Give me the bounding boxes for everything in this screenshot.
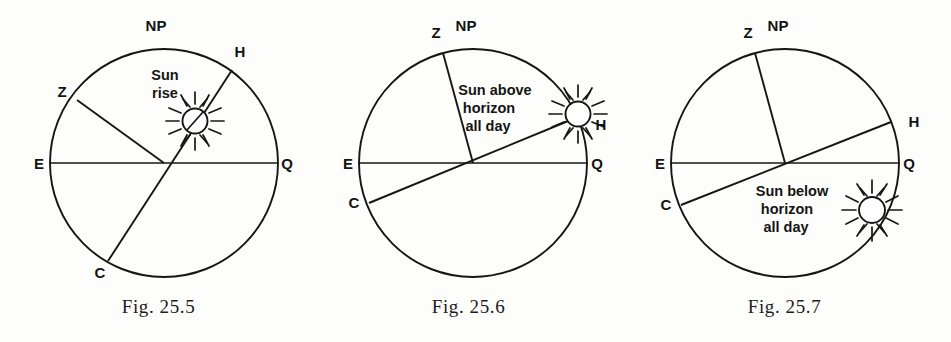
sun-icon bbox=[842, 180, 902, 241]
figure-25-6: NP Z H C E Q Sun above horizon all day F… bbox=[310, 0, 627, 342]
figure-25-7: NP Z H C E Q Sun below horizon all day F… bbox=[626, 0, 943, 342]
label-equator: Q bbox=[281, 155, 293, 172]
label-north-pole: NP bbox=[768, 17, 789, 34]
label-equator: Q bbox=[591, 155, 603, 172]
label-celestial-point: C bbox=[95, 264, 106, 281]
celestial-sphere-diagram-1: NP Z H C E Q Sun rise bbox=[0, 0, 317, 290]
figure-plate: NP Z H C E Q Sun rise Fig. 25.5 bbox=[0, 0, 951, 342]
label-horizon: H bbox=[235, 43, 246, 60]
annotation-line-1: Sun below bbox=[756, 183, 829, 199]
sun-icon bbox=[549, 85, 607, 143]
label-horizon: H bbox=[596, 116, 607, 133]
label-zenith: Z bbox=[743, 24, 752, 41]
figure-caption: Fig. 25.6 bbox=[310, 296, 627, 318]
annotation-line-1: Sun bbox=[151, 67, 178, 83]
annotation-line-2: rise bbox=[152, 85, 178, 101]
label-celestial-point: C bbox=[349, 194, 360, 211]
label-equator: Q bbox=[903, 155, 915, 172]
label-celestial-point: C bbox=[661, 196, 672, 213]
figure-25-5: NP Z H C E Q Sun rise Fig. 25.5 bbox=[0, 0, 317, 342]
annotation-line-2: horizon bbox=[463, 100, 515, 116]
label-east: E bbox=[655, 155, 665, 172]
label-east: E bbox=[34, 155, 44, 172]
label-east: E bbox=[343, 155, 353, 172]
label-north-pole: NP bbox=[456, 17, 477, 34]
figure-caption: Fig. 25.5 bbox=[0, 296, 317, 318]
annotation-line-2: horizon bbox=[761, 201, 813, 217]
label-horizon: H bbox=[909, 113, 920, 130]
annotation-line-3: all day bbox=[763, 219, 808, 235]
label-zenith: Z bbox=[431, 24, 440, 41]
label-zenith: Z bbox=[57, 83, 66, 100]
celestial-sphere-diagram-3: NP Z H C E Q Sun below horizon all day bbox=[626, 0, 943, 290]
celestial-sphere-diagram-2: NP Z H C E Q Sun above horizon all day bbox=[310, 0, 627, 290]
zenith-radius-Z bbox=[755, 53, 785, 163]
annotation-line-1: Sun above bbox=[458, 82, 531, 98]
zenith-radius-Z bbox=[77, 100, 164, 163]
label-north-pole: NP bbox=[146, 17, 167, 34]
figure-caption: Fig. 25.7 bbox=[626, 296, 943, 318]
annotation-line-3: all day bbox=[465, 118, 510, 134]
